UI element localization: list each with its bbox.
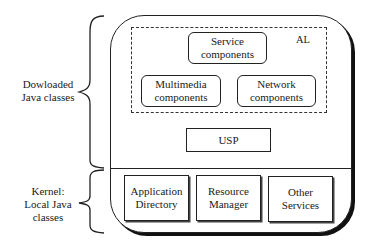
downloaded-label-line1: Dowloaded (18, 78, 78, 91)
app-directory-line2: Directory (131, 198, 183, 211)
downloaded-java-classes-label: Dowloaded Java classes (18, 78, 78, 104)
resource-manager-box: Resource Manager (196, 175, 261, 221)
kernel-divider (110, 168, 352, 169)
downloaded-brace-icon (79, 16, 104, 168)
multimedia-line2: components (154, 91, 207, 104)
al-label: AL (296, 34, 310, 45)
multimedia-line1: Multimedia (154, 78, 207, 91)
usp-box: USP (186, 128, 271, 152)
network-line2: components (250, 91, 303, 104)
network-components-box: Network components (237, 75, 316, 107)
network-line1: Network (250, 78, 303, 91)
multimedia-components-box: Multimedia components (141, 75, 221, 107)
application-directory-box: Application Directory (124, 175, 189, 221)
service-line2: components (201, 48, 254, 61)
kernel-label-line2: Local Java (18, 198, 78, 211)
service-components-box: Service components (188, 32, 267, 64)
other-services-box: Other Services (268, 176, 333, 222)
downloaded-label-line2: Java classes (18, 91, 78, 104)
kernel-brace-icon (79, 170, 104, 233)
resource-manager-line1: Resource (208, 185, 249, 198)
kernel-local-java-classes-label: Kernel: Local Java classes (18, 185, 78, 224)
other-services-line2: Services (282, 199, 319, 212)
app-directory-line1: Application (131, 185, 183, 198)
usp-label: USP (218, 134, 238, 147)
kernel-label-line1: Kernel: (18, 185, 78, 198)
other-services-line1: Other (282, 186, 319, 199)
resource-manager-line2: Manager (208, 198, 249, 211)
service-line1: Service (201, 35, 254, 48)
kernel-label-line3: classes (18, 211, 78, 224)
